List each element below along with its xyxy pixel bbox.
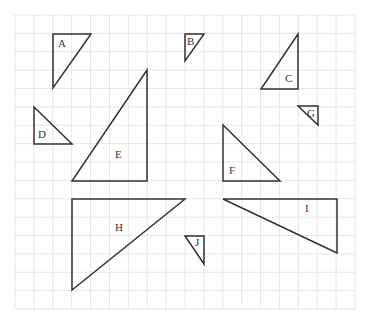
triangle-g: G bbox=[298, 106, 318, 125]
triangle-b: B bbox=[185, 34, 204, 61]
triangle-outline bbox=[223, 199, 337, 253]
triangle-label: J bbox=[195, 236, 200, 248]
triangle-j: J bbox=[185, 236, 204, 264]
triangle-label: I bbox=[305, 202, 309, 214]
triangle-label: B bbox=[187, 35, 194, 47]
triangle-label: D bbox=[38, 128, 46, 140]
triangle-label: G bbox=[307, 107, 315, 119]
triangle-label: E bbox=[115, 148, 122, 160]
triangle-f: F bbox=[223, 125, 280, 181]
triangle-label: A bbox=[58, 37, 66, 49]
triangle-label: C bbox=[285, 72, 292, 84]
triangle-i: I bbox=[223, 199, 337, 253]
triangle-grid-diagram: ABCDEFGHIJ bbox=[0, 0, 365, 321]
triangle-label: H bbox=[115, 221, 123, 233]
triangle-label: F bbox=[229, 164, 235, 176]
